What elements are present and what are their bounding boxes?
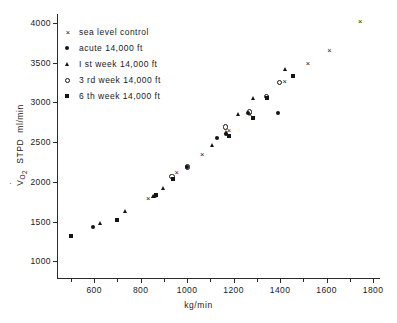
x-tick — [141, 279, 142, 283]
marker-filled-square — [291, 74, 295, 78]
x-minor-tick — [350, 279, 351, 282]
legend-item: 6 th week 14,000 ft — [62, 88, 161, 104]
marker-open-circle — [65, 78, 70, 83]
legend-label: acute 14,000 ft — [79, 43, 143, 53]
legend-item: 3 rd week 14,000 ft — [62, 72, 161, 88]
marker-filled-triangle — [283, 67, 287, 71]
x-tick — [373, 279, 374, 283]
legend-label: 3 rd week 14,000 ft — [79, 75, 161, 85]
y-tick-label: 4000 — [17, 18, 51, 28]
marker-open-circle — [223, 124, 228, 129]
marker-filled-circle — [91, 225, 95, 229]
marker-x: × — [199, 152, 205, 158]
marker-filled-triangle — [251, 96, 255, 100]
legend-label: I st week 14,000 ft — [79, 59, 157, 69]
marker-x: × — [305, 61, 311, 67]
x-axis-line — [57, 278, 380, 279]
y-tick — [53, 261, 57, 262]
marker-filled-square — [227, 134, 231, 138]
marker-filled-triangle — [98, 221, 102, 225]
y-tick — [53, 23, 57, 24]
x-tick-label: 600 — [74, 285, 114, 295]
marker-filled-square — [171, 177, 175, 181]
legend-item: ×sea level control — [62, 24, 161, 40]
marker-filled-triangle — [210, 143, 214, 147]
x-tick-label: 1200 — [214, 285, 254, 295]
y-tick — [53, 63, 57, 64]
legend-item: acute 14,000 ft — [62, 40, 161, 56]
legend-label: 6 th week 14,000 ft — [79, 91, 160, 101]
x-tick — [234, 279, 235, 283]
x-minor-tick — [164, 279, 165, 282]
legend-marker — [62, 76, 74, 84]
x-minor-tick — [303, 279, 304, 282]
marker-open-circle — [247, 109, 252, 114]
marker-open-circle — [185, 164, 190, 169]
y-tick-label: 1000 — [17, 256, 51, 266]
y-tick — [53, 102, 57, 103]
marker-filled-circle — [215, 136, 219, 140]
marker-filled-square — [251, 116, 255, 120]
y-tick — [53, 182, 57, 183]
marker-filled-square — [65, 94, 69, 98]
x-tick-label: 1400 — [260, 285, 300, 295]
legend-marker — [62, 92, 74, 100]
marker-x: × — [282, 79, 288, 85]
marker-filled-square — [115, 218, 119, 222]
marker-x: × — [326, 48, 332, 54]
marker-filled-square — [265, 96, 269, 100]
scatter-chart-figure: 1000150020002500300035004000 60080010001… — [0, 0, 397, 323]
x-minor-tick — [257, 279, 258, 282]
marker-x: × — [357, 19, 363, 25]
x-tick — [187, 279, 188, 283]
y-tick — [53, 222, 57, 223]
marker-filled-triangle — [65, 62, 69, 66]
marker-filled-square — [69, 234, 73, 238]
x-tick-label: 1800 — [353, 285, 393, 295]
x-tick — [327, 279, 328, 283]
x-axis-title: kg/min — [0, 300, 397, 310]
y-tick-label: 1500 — [17, 217, 51, 227]
marker-filled-triangle — [236, 112, 240, 116]
x-tick — [94, 279, 95, 283]
y-axis-line — [57, 14, 58, 278]
y-tick-label: 3500 — [17, 58, 51, 68]
marker-filled-circle — [276, 111, 280, 115]
x-tick — [280, 279, 281, 283]
chart-legend: ×sea level controlacute 14,000 ftI st we… — [62, 24, 161, 104]
legend-marker — [62, 60, 74, 68]
x-minor-tick — [117, 279, 118, 282]
marker-filled-triangle — [224, 130, 228, 134]
legend-label: sea level control — [79, 27, 149, 37]
x-tick-label: 1000 — [167, 285, 207, 295]
marker-filled-triangle — [161, 186, 165, 190]
y-tick — [53, 142, 57, 143]
x-minor-tick — [71, 279, 72, 282]
x-minor-tick — [210, 279, 211, 282]
legend-item: I st week 14,000 ft — [62, 56, 161, 72]
marker-filled-square — [154, 193, 158, 197]
x-tick-label: 800 — [121, 285, 161, 295]
marker-filled-triangle — [123, 209, 127, 213]
marker-x: × — [65, 30, 71, 36]
legend-marker: × — [62, 28, 74, 36]
x-tick-label: 1600 — [307, 285, 347, 295]
y-axis-title: VO2 STPD ml/min — [15, 85, 25, 205]
legend-marker — [62, 44, 74, 52]
marker-filled-circle — [65, 46, 69, 50]
